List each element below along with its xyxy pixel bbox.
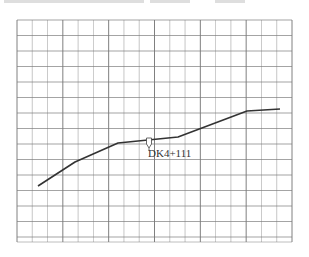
profile-diagram	[0, 0, 309, 257]
grid	[17, 20, 292, 242]
station-label: DK4+111	[148, 147, 191, 159]
